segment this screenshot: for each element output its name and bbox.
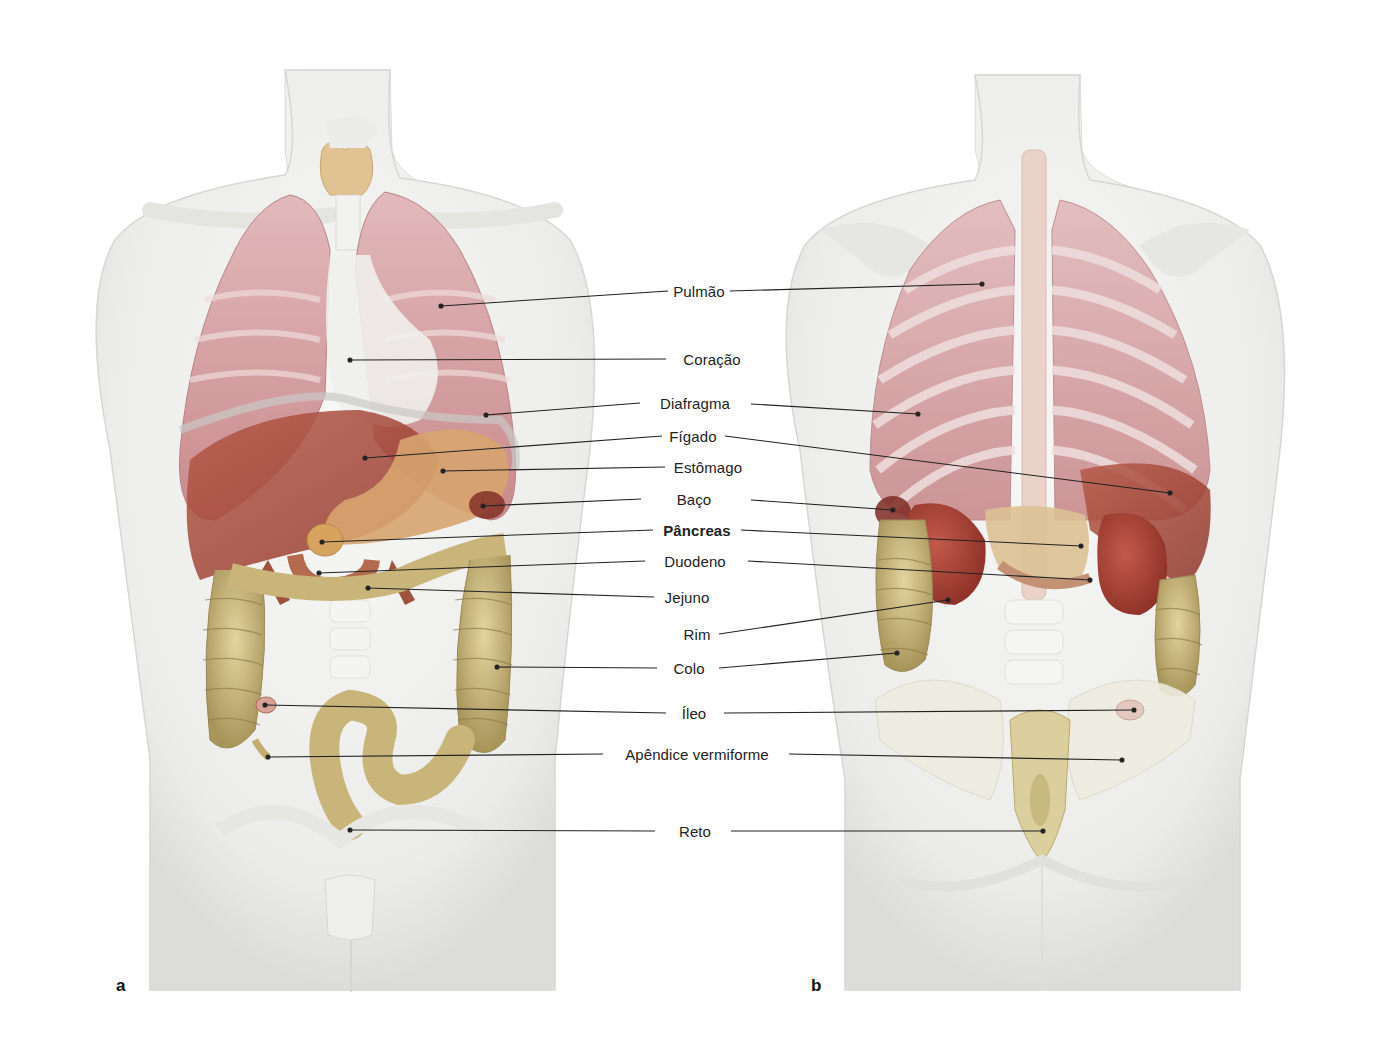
panel-letter-b: b xyxy=(811,976,821,996)
leader-dot-estomago xyxy=(441,469,445,473)
leader-dot-apendice xyxy=(1120,758,1124,762)
leader-dot-duodeno xyxy=(1088,578,1092,582)
label-figado: Fígado xyxy=(669,428,716,445)
leader-dot-pancreas xyxy=(1079,544,1083,548)
label-colo: Colo xyxy=(673,660,704,677)
leader-dot-pulmao xyxy=(980,282,984,286)
leader-dot-diafragma xyxy=(484,413,488,417)
anatomy-figure: Pulmão Coração Diafragma Fígado Estômago… xyxy=(0,0,1388,1052)
leader-dot-ileo xyxy=(263,703,267,707)
leader-dot-figado xyxy=(363,456,367,460)
leader-dot-reto xyxy=(1041,829,1045,833)
panel-a-anterior xyxy=(96,70,594,992)
label-duodeno: Duodeno xyxy=(664,553,726,570)
leader-dot-coracao xyxy=(348,358,352,362)
label-apendice: Apêndice vermiforme xyxy=(625,746,769,763)
leader-dot-colo xyxy=(895,651,899,655)
leader-dot-baco xyxy=(481,504,485,508)
label-pancreas: Pâncreas xyxy=(663,522,731,539)
leader-dot-apendice xyxy=(266,755,270,759)
label-coracao: Coração xyxy=(683,351,740,368)
panel-letter-a: a xyxy=(116,976,125,996)
leader-dot-duodeno xyxy=(317,571,321,575)
leader-dot-baco xyxy=(891,508,895,512)
leader-dot-jejuno xyxy=(366,586,370,590)
pancreas-a xyxy=(307,524,343,556)
leader-dot-ileo xyxy=(1132,708,1136,712)
panel-b-posterior xyxy=(786,75,1284,990)
leader-dot-figado xyxy=(1168,491,1172,495)
label-pulmao: Pulmão xyxy=(673,283,724,300)
thyroid-gland xyxy=(320,143,372,196)
label-baco: Baço xyxy=(677,491,712,508)
leader-dot-diafragma xyxy=(916,412,920,416)
label-reto: Reto xyxy=(679,823,711,840)
label-jejuno: Jejuno xyxy=(665,589,710,606)
label-rim: Rim xyxy=(684,626,711,643)
leader-dot-reto xyxy=(348,828,352,832)
leader-dot-pancreas xyxy=(320,540,324,544)
leader-dot-pulmao xyxy=(439,304,443,308)
leader-dot-rim xyxy=(946,598,950,602)
label-estomago: Estômago xyxy=(674,459,742,476)
label-ileo: Íleo xyxy=(682,705,707,722)
label-diafragma: Diafragma xyxy=(660,395,730,412)
leader-dot-colo xyxy=(495,665,499,669)
